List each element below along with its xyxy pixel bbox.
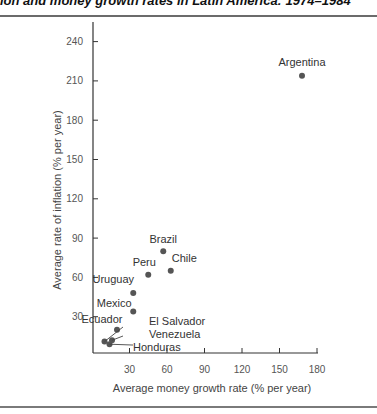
y-tick-label: 150 [66,154,83,165]
point-label: El Salvador [149,315,206,327]
point-label: Brazil [149,233,177,245]
point-label: Chile [172,252,197,264]
point-label: Mexico [97,297,132,309]
x-tick-label: 120 [234,364,251,375]
point-label: Peru [133,256,156,268]
y-tick-label: 210 [66,75,83,86]
point-label: Ecuador [82,313,123,325]
leader-line [110,344,133,345]
scatter-plot: 306090120150180210240306090120150180 Arg… [0,0,377,414]
point-label: Argentina [278,56,326,68]
y-tick-label: 60 [72,272,84,283]
point-label: Honduras [133,341,181,353]
data-point [168,268,174,274]
data-point [299,73,305,79]
point-label: Uruguay [92,273,134,285]
y-tick-label: 180 [66,115,83,126]
x-tick-label: 180 [309,364,326,375]
data-point [145,272,151,278]
point-label: Venezuela [149,328,201,340]
x-tick-label: 60 [161,364,173,375]
data-point [160,248,166,254]
x-tick-label: 150 [271,364,288,375]
y-tick-label: 240 [66,36,83,47]
x-tick-label: 30 [124,364,136,375]
data-points: ArgentinaBrazilChilePeruUruguayMexicoEcu… [82,56,327,353]
y-tick-label: 90 [72,233,84,244]
y-tick-label: 120 [66,193,83,204]
y-axis-label: Average rate of inflation (% per year) [51,110,63,290]
x-axis-label: Average money growth rate (% per year) [113,382,312,394]
x-tick-label: 90 [199,364,211,375]
data-point [130,290,136,296]
